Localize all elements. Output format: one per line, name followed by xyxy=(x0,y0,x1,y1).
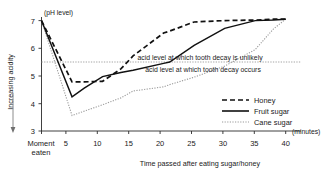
x-tick-label-10: 10 xyxy=(93,139,101,148)
y-axis-unit: (pH level) xyxy=(44,9,73,17)
chart-container: Increasing acidity (pH level) 7 6 5 4 3 xyxy=(0,0,325,176)
x-axis-title: Time passed after eating sugar/honey xyxy=(140,159,261,168)
legend-label-fruit-sugar: Fruit sugar xyxy=(254,107,290,116)
annotation-decay-unlikely: acid level at which tooth decay is unlik… xyxy=(137,54,263,62)
chart-legend: Honey Fruit sugar Cane sugar xyxy=(222,96,293,127)
x-tick-label-15: 15 xyxy=(125,139,133,148)
y-tick-label-4: 4 xyxy=(31,100,35,109)
y-tick-label-7: 7 xyxy=(31,17,35,26)
y-axis-title: Increasing acidity xyxy=(6,54,15,110)
increasing-acidity-arrow-head xyxy=(11,127,16,133)
x-tick-label-25: 25 xyxy=(187,139,195,148)
x-tick-label-moment-eaten-line1: Moment xyxy=(27,139,55,148)
x-tick-label-moment-eaten-line2: eaten xyxy=(32,148,51,157)
x-tick-label-30: 30 xyxy=(219,139,227,148)
x-tick-label-5: 5 xyxy=(64,139,68,148)
x-tick-label-20: 20 xyxy=(156,139,164,148)
y-tick-label-5: 5 xyxy=(31,72,35,81)
y-axis-ticks: 7 6 5 4 3 xyxy=(31,17,42,136)
y-tick-label-6: 6 xyxy=(31,44,35,53)
x-tick-label-40: 40 xyxy=(282,139,290,148)
legend-label-cane-sugar: Cane sugar xyxy=(254,118,293,127)
annotation-decay-occurs: acid level at which tooth decay occurs xyxy=(145,66,261,74)
y-axis-label-group: Increasing acidity xyxy=(6,54,15,133)
y-tick-label-3: 3 xyxy=(31,127,35,136)
x-axis-ticks: Moment eaten 5 10 15 20 25 30 35 40 xyxy=(27,131,289,157)
legend-label-honey: Honey xyxy=(254,96,276,105)
x-tick-label-35: 35 xyxy=(250,139,258,148)
ph-decay-line-chart: Increasing acidity (pH level) 7 6 5 4 3 xyxy=(0,0,325,176)
x-axis-unit: (minutes) xyxy=(292,128,320,136)
